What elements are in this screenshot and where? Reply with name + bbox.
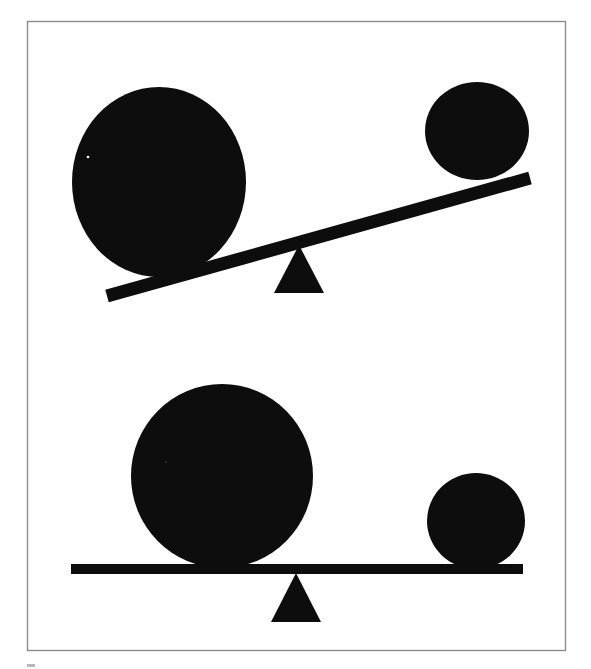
- top-left-large-weight-disc: [72, 87, 246, 277]
- balance-scale-figure: [0, 0, 591, 669]
- speck-top-left-disc-icon: [87, 156, 90, 159]
- bottom-left-large-weight-disc: [131, 384, 313, 568]
- bottom-balance-beam: [71, 564, 523, 574]
- scan-smudge-artifact: [27, 664, 35, 667]
- bottom-right-small-weight-disc: [427, 473, 525, 569]
- figure-canvas: Balance scale comparison diagram unbalan…: [0, 0, 591, 669]
- top-right-small-weight-disc: [425, 82, 529, 180]
- speck-bottom-left-disc-icon: [165, 461, 167, 463]
